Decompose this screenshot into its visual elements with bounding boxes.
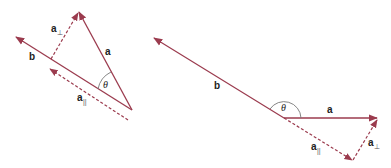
vector-a-parallel: [50, 69, 128, 120]
label-b: b: [29, 51, 35, 62]
label-theta: θ: [281, 102, 286, 113]
label-a: a: [105, 46, 111, 57]
vector-a-perp: [51, 13, 78, 59]
label-a: a: [327, 104, 333, 115]
label-a-parallel-sub: ||: [83, 98, 87, 106]
vector-b: [16, 37, 132, 110]
left-diagram: b a a ⊥ a || θ: [16, 12, 132, 120]
vector-b: [154, 38, 284, 118]
vector-projection-diagram: b a a ⊥ a || θ b a a || a ⊥ θ: [0, 0, 391, 168]
vector-a: [79, 12, 132, 110]
right-diagram: b a a || a ⊥ θ: [154, 38, 380, 160]
label-a-perp-sub: ⊥: [57, 29, 63, 36]
label-a-perp-sub: ⊥: [374, 143, 380, 150]
label-a-parallel-sub: ||: [317, 147, 321, 155]
label-theta: θ: [103, 79, 108, 90]
label-b: b: [214, 80, 220, 91]
